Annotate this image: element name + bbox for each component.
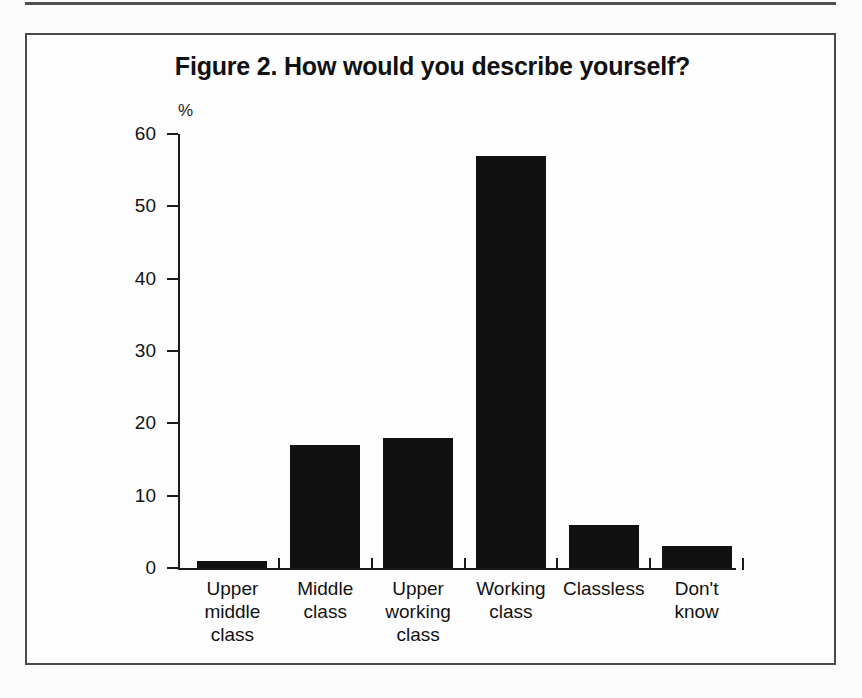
bar xyxy=(569,525,639,568)
x-axis-category-label-line: Classless xyxy=(557,577,650,600)
y-axis-tick xyxy=(167,133,178,135)
page-title: Figure 2. How would you describe yoursel… xyxy=(27,52,838,81)
y-axis-line xyxy=(178,134,180,569)
x-axis-category-label-line: Middle xyxy=(279,577,372,600)
x-axis-tick xyxy=(556,558,558,570)
x-axis-category-label-line: working xyxy=(372,600,465,623)
x-axis-category-label-line: middle xyxy=(186,600,279,623)
y-axis-tick-label: 40 xyxy=(135,268,156,290)
y-axis-tick xyxy=(167,495,178,497)
x-axis-category-label: Classless xyxy=(557,577,650,600)
bar xyxy=(197,561,267,568)
x-axis-category-label-line: class xyxy=(372,623,465,646)
bar-chart-plot-area: 0102030405060 UppermiddleclassMiddleclas… xyxy=(178,134,735,568)
y-axis-tick xyxy=(167,422,178,424)
x-axis-category-label-line: class xyxy=(186,623,279,646)
page-top-rule xyxy=(25,2,836,5)
y-axis-tick-label: 30 xyxy=(135,340,156,362)
x-axis-category-label: Uppermiddleclass xyxy=(186,577,279,646)
y-axis-unit-label: % xyxy=(178,101,193,121)
x-axis-end-tick xyxy=(742,558,744,570)
scanned-page: Figure 2. How would you describe yoursel… xyxy=(0,0,862,698)
x-axis-category-label-line: Don't know xyxy=(650,577,743,623)
x-axis-category-label-line: Working xyxy=(465,577,558,600)
y-axis-tick-label: 60 xyxy=(135,123,156,145)
x-axis-category-label-line: class xyxy=(279,600,372,623)
x-axis-category-label: Upperworkingclass xyxy=(372,577,465,646)
bar xyxy=(290,445,360,568)
y-axis-tick xyxy=(167,350,178,352)
figure-frame: Figure 2. How would you describe yoursel… xyxy=(25,33,836,665)
x-axis-tick xyxy=(278,558,280,570)
y-axis-tick xyxy=(167,205,178,207)
y-axis-tick xyxy=(167,567,178,569)
bar xyxy=(476,156,546,568)
x-axis-category-label-line: Upper xyxy=(186,577,279,600)
y-axis-tick xyxy=(167,278,178,280)
x-axis-category-label: Workingclass xyxy=(465,577,558,623)
x-axis-tick xyxy=(649,558,651,570)
bar xyxy=(662,546,732,568)
y-axis-tick-label: 10 xyxy=(135,485,156,507)
y-axis-tick-label: 50 xyxy=(135,195,156,217)
y-axis-tick-label: 0 xyxy=(145,557,156,579)
x-axis-category-label: Don't know xyxy=(650,577,743,623)
x-axis-line xyxy=(178,568,736,570)
x-axis-tick xyxy=(464,558,466,570)
x-axis-category-label-line: class xyxy=(465,600,558,623)
x-axis-category-label: Middleclass xyxy=(279,577,372,623)
x-axis-category-label-line: Upper xyxy=(372,577,465,600)
x-axis-tick xyxy=(371,558,373,570)
y-axis-tick-label: 20 xyxy=(135,412,156,434)
bar xyxy=(383,438,453,568)
